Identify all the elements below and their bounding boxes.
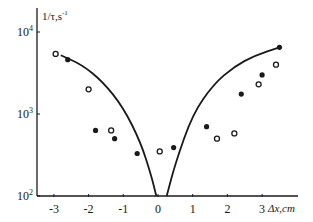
data-points	[53, 45, 282, 156]
filled-circle-marker	[65, 57, 70, 62]
open-circle-marker	[53, 51, 58, 56]
x-tick-label: 0	[155, 202, 161, 216]
axis-labels: -3-2-101231021031041/τ,s-1Δx,cm	[17, 9, 295, 216]
x-tick-label: -2	[84, 202, 94, 216]
filled-circle-marker	[112, 136, 117, 141]
open-circle-marker	[232, 131, 237, 136]
y-tick-label: 104	[17, 24, 33, 39]
chart: -3-2-101231021031041/τ,s-1Δx,cm	[0, 0, 313, 222]
x-axis-label: Δx,cm	[267, 202, 295, 214]
plot-area: -3-2-101231021031041/τ,s-1Δx,cm	[0, 0, 313, 222]
filled-circle-marker	[239, 91, 244, 96]
axes	[37, 8, 298, 197]
filled-circle-marker	[171, 145, 176, 150]
filled-circle-marker	[204, 124, 209, 129]
open-circle-marker	[109, 128, 114, 133]
theory-curve	[61, 47, 280, 196]
open-circle-marker	[273, 62, 278, 67]
curve-right-branch	[167, 47, 280, 196]
x-tick-label: -1	[118, 202, 128, 216]
filled-circle-marker	[135, 151, 140, 156]
filled-circle-marker	[260, 72, 265, 77]
y-tick-label: 103	[17, 106, 33, 121]
open-circle-marker	[256, 82, 261, 87]
y-tick-label: 102	[17, 188, 33, 203]
filled-circle-marker	[93, 128, 98, 133]
x-tick-label: 2	[224, 202, 230, 216]
y-axis-label: 1/τ,s-1	[42, 9, 68, 22]
open-circle-marker	[214, 136, 219, 141]
x-tick-label: 3	[259, 202, 265, 216]
x-tick-label: -3	[49, 202, 59, 216]
filled-circle-marker	[277, 45, 282, 50]
open-circle-marker	[157, 149, 162, 154]
curve-left-branch	[61, 55, 157, 196]
x-tick-label: 1	[190, 202, 196, 216]
open-circle-marker	[86, 87, 91, 92]
